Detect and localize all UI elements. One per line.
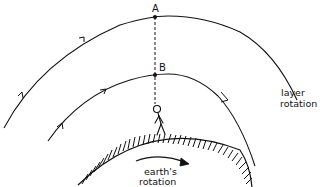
point-b-label: B bbox=[159, 62, 166, 73]
layer-rotation-label-line2: rotation bbox=[280, 98, 317, 109]
observer-stick-figure-icon bbox=[154, 106, 166, 136]
point-b-dot bbox=[153, 73, 157, 77]
point-a-dot bbox=[153, 15, 157, 19]
point-a-label: A bbox=[152, 3, 159, 14]
outer-arc-arrow-2-icon bbox=[18, 92, 23, 98]
layer-rotation-label-line1: layer bbox=[281, 87, 305, 98]
inner-layer-arc bbox=[48, 74, 255, 166]
earth-rotation-label-line2: rotation bbox=[139, 176, 176, 187]
earth-rotation-arrow-icon bbox=[136, 157, 189, 166]
outer-layer-arc bbox=[4, 16, 297, 128]
outer-arc-arrow-1-icon bbox=[79, 37, 84, 42]
layer-rotation-diagram: A B layer rotation bbox=[0, 0, 329, 187]
